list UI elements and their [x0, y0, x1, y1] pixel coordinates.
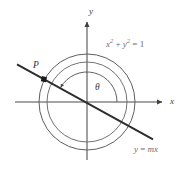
angle-arc-theta: [61, 72, 117, 102]
figure-container: y x P θ x2 + y2 = 1 y = mx: [0, 0, 183, 184]
angle-theta-label: θ: [95, 83, 100, 93]
line-equation-label: y = mx: [134, 145, 158, 154]
y-axis-label: y: [89, 7, 93, 16]
line-eq-equals: =: [138, 144, 148, 154]
point-p-label: P: [33, 61, 39, 71]
eq-one: 1: [140, 39, 145, 49]
circle-equation-label: x2 + y2 = 1: [106, 38, 144, 49]
eq-equals: =: [130, 39, 140, 49]
line-eq-x-var: x: [154, 144, 158, 154]
x-axis-label: x: [170, 97, 174, 106]
diagram-canvas: [0, 0, 183, 184]
eq-plus: +: [113, 39, 123, 49]
point-p-marker: [41, 76, 47, 82]
